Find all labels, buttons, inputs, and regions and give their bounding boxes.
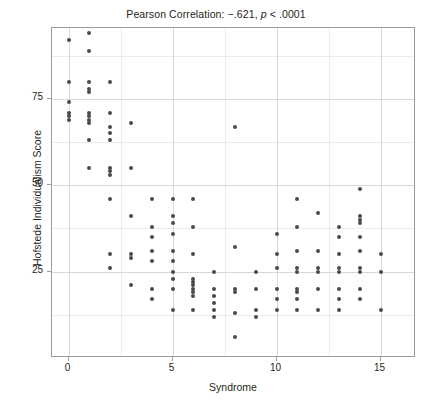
data-point bbox=[358, 235, 362, 239]
data-point bbox=[150, 297, 154, 301]
data-point bbox=[379, 252, 383, 256]
gridline-vertical-minor bbox=[329, 28, 330, 356]
data-point bbox=[171, 277, 175, 281]
data-point bbox=[233, 290, 237, 294]
data-point bbox=[171, 214, 175, 218]
data-point bbox=[337, 225, 341, 229]
chart-title-suffix: < .0001 bbox=[267, 8, 306, 20]
data-point bbox=[171, 270, 175, 274]
data-point bbox=[275, 266, 279, 270]
data-point bbox=[254, 270, 258, 274]
gridline-horizontal-minor bbox=[52, 56, 414, 57]
data-point bbox=[275, 252, 279, 256]
gridline-vertical bbox=[381, 28, 382, 356]
y-axis-tick-label: 25 bbox=[7, 264, 43, 275]
data-point bbox=[191, 252, 195, 256]
data-point bbox=[171, 221, 175, 225]
gridline-horizontal-minor bbox=[52, 315, 414, 316]
data-point bbox=[295, 290, 299, 294]
data-point bbox=[171, 287, 175, 291]
data-point bbox=[191, 197, 195, 201]
data-point bbox=[67, 118, 71, 122]
data-point bbox=[275, 308, 279, 312]
data-point bbox=[358, 287, 362, 291]
data-point bbox=[67, 100, 71, 104]
x-axis-tick bbox=[276, 357, 277, 361]
gridline-vertical bbox=[173, 28, 174, 356]
data-point bbox=[87, 90, 91, 94]
gridline-vertical bbox=[69, 28, 70, 356]
data-point bbox=[233, 245, 237, 249]
data-point bbox=[171, 232, 175, 236]
data-point bbox=[212, 270, 216, 274]
data-point bbox=[275, 232, 279, 236]
data-point bbox=[316, 270, 320, 274]
data-point bbox=[129, 166, 133, 170]
data-point bbox=[129, 121, 133, 125]
data-point bbox=[87, 166, 91, 170]
y-axis-tick bbox=[47, 184, 51, 185]
x-axis-tick bbox=[68, 357, 69, 361]
scatter-plot-figure: Pearson Correlation: −.621, p < .0001 Ho… bbox=[0, 0, 432, 409]
data-point bbox=[358, 187, 362, 191]
data-point bbox=[87, 80, 91, 84]
data-point bbox=[337, 270, 341, 274]
data-point bbox=[295, 249, 299, 253]
data-point bbox=[150, 235, 154, 239]
data-point bbox=[275, 287, 279, 291]
data-point bbox=[316, 308, 320, 312]
x-axis-tick-label: 0 bbox=[48, 362, 88, 373]
data-point bbox=[316, 249, 320, 253]
data-point bbox=[358, 221, 362, 225]
data-point bbox=[337, 287, 341, 291]
data-point bbox=[295, 197, 299, 201]
y-axis-tick bbox=[47, 98, 51, 99]
data-point bbox=[87, 31, 91, 35]
data-point bbox=[212, 308, 216, 312]
data-point bbox=[212, 294, 216, 298]
plot-area bbox=[51, 27, 415, 357]
data-point bbox=[254, 315, 258, 319]
gridline-horizontal bbox=[52, 99, 414, 100]
data-point bbox=[233, 125, 237, 129]
data-point bbox=[316, 211, 320, 215]
data-point bbox=[358, 249, 362, 253]
chart-title-prefix: Pearson Correlation: −.621, bbox=[126, 8, 260, 20]
data-point bbox=[108, 252, 112, 256]
gridline-vertical-minor bbox=[121, 28, 122, 356]
data-point bbox=[379, 270, 383, 274]
data-point bbox=[108, 131, 112, 135]
data-point bbox=[379, 308, 383, 312]
data-point bbox=[150, 249, 154, 253]
data-point bbox=[108, 80, 112, 84]
data-point bbox=[129, 256, 133, 260]
data-point bbox=[150, 225, 154, 229]
data-point bbox=[108, 173, 112, 177]
data-point bbox=[87, 49, 91, 53]
chart-title: Pearson Correlation: −.621, p < .0001 bbox=[0, 8, 432, 20]
data-point bbox=[295, 308, 299, 312]
data-point bbox=[316, 287, 320, 291]
data-point bbox=[108, 111, 112, 115]
data-point bbox=[337, 235, 341, 239]
data-point bbox=[150, 287, 154, 291]
data-point bbox=[191, 294, 195, 298]
data-point bbox=[171, 197, 175, 201]
data-point bbox=[171, 308, 175, 312]
data-point bbox=[171, 259, 175, 263]
data-point bbox=[67, 80, 71, 84]
gridline-vertical-minor bbox=[225, 28, 226, 356]
y-axis-tick-label: 75 bbox=[7, 91, 43, 102]
data-point bbox=[358, 270, 362, 274]
data-point bbox=[87, 121, 91, 125]
gridline-horizontal-minor bbox=[52, 142, 414, 143]
data-point bbox=[129, 283, 133, 287]
y-axis-tick bbox=[47, 271, 51, 272]
data-point bbox=[254, 287, 258, 291]
data-point bbox=[275, 297, 279, 301]
x-axis-tick bbox=[172, 357, 173, 361]
data-point bbox=[337, 252, 341, 256]
data-point bbox=[295, 297, 299, 301]
gridline-vertical bbox=[277, 28, 278, 356]
data-point bbox=[150, 197, 154, 201]
